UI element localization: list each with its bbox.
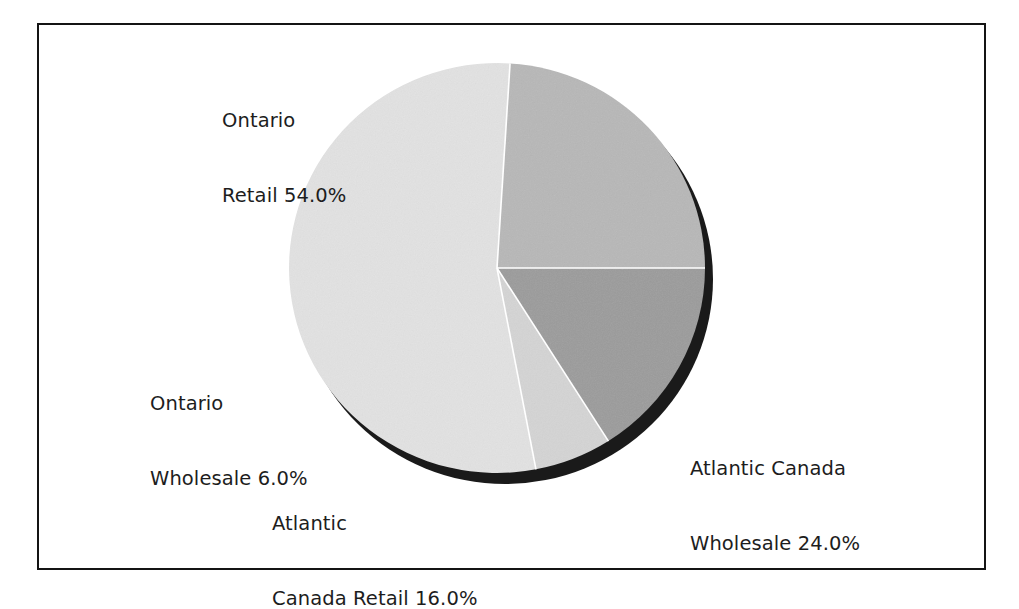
slice-label-atlantic-canada-wholesale: Atlantic Canada Wholesale 24.0%: [690, 406, 860, 581]
slice-label-atlantic-canada-retail: Atlantic Canada Retail 16.0%: [272, 461, 478, 609]
slice-label-line-2: Retail 54.0%: [222, 183, 346, 208]
slice-label-line-1: Ontario: [222, 108, 346, 133]
slice-label-line-2: Canada Retail 16.0%: [272, 586, 478, 609]
slice-label-line-1: Atlantic Canada: [690, 456, 860, 481]
pie-slice-atlantic-canada-wholesale[interactable]: [497, 63, 705, 268]
slice-label-line-1: Ontario: [150, 391, 308, 416]
slice-label-ontario-retail: Ontario Retail 54.0%: [222, 58, 346, 233]
slice-label-line-1: Atlantic: [272, 511, 478, 536]
slice-label-line-2: Wholesale 24.0%: [690, 531, 860, 556]
